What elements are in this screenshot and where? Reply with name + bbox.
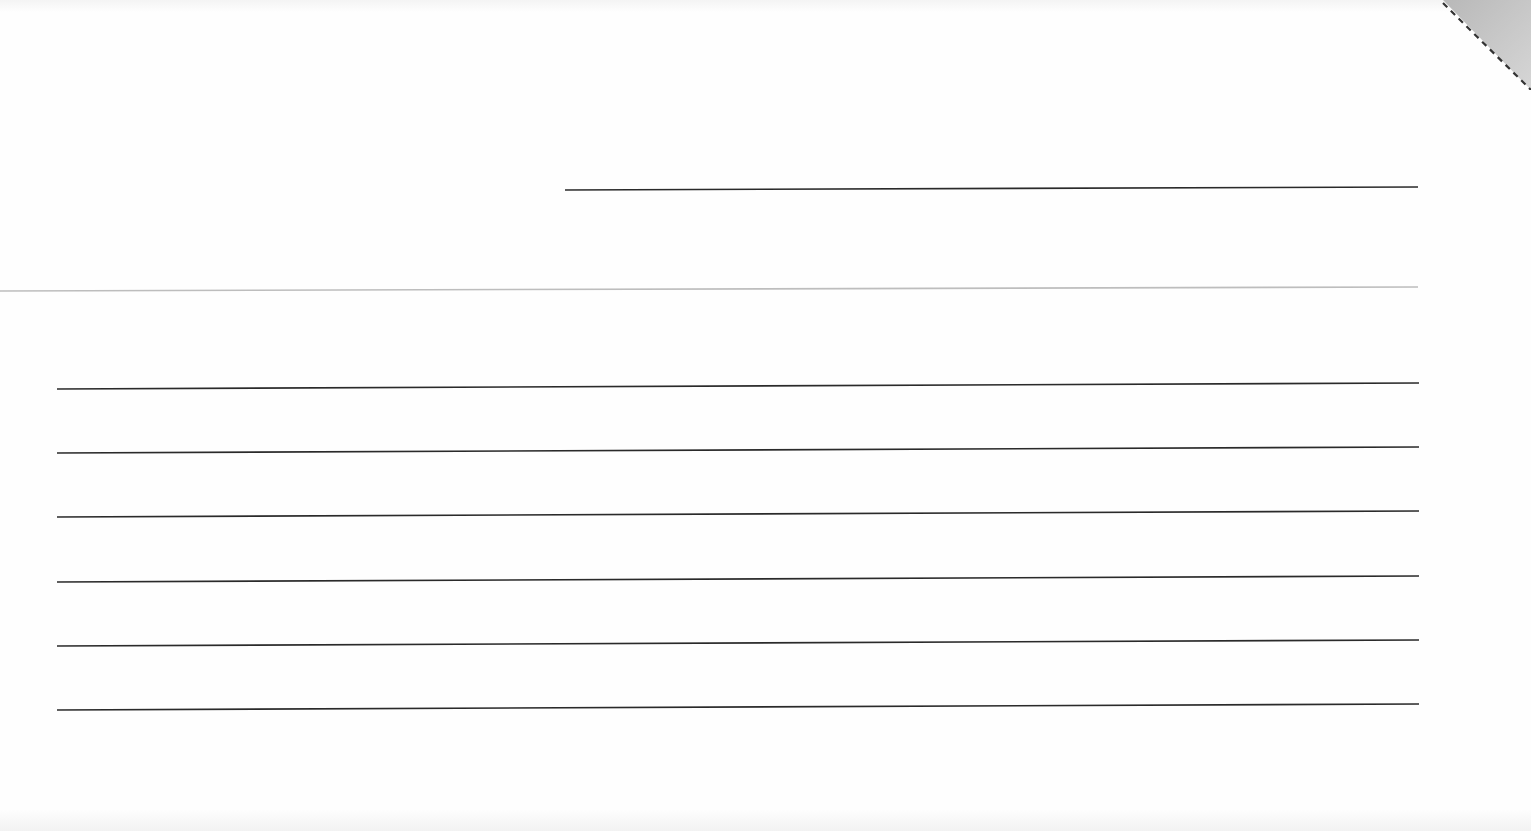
write-line-1[interactable] (57, 383, 1419, 389)
write-line-6[interactable] (57, 704, 1419, 710)
top-write-line[interactable] (565, 187, 1418, 190)
write-line-2[interactable] (57, 447, 1419, 453)
corner-fold-icon (1431, 0, 1531, 90)
write-line-5[interactable] (57, 640, 1419, 646)
write-line-4[interactable] (57, 576, 1419, 582)
section-separator (0, 287, 1418, 291)
ruled-lines (57, 383, 1419, 710)
ruled-form-page (0, 0, 1531, 831)
write-line-3[interactable] (57, 511, 1419, 517)
form-lines (0, 0, 1531, 831)
